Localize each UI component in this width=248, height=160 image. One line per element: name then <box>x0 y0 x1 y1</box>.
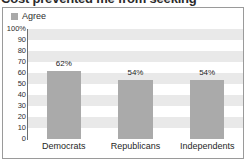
bar-slot: 62% <box>28 29 100 139</box>
y-axis-tick: 70 <box>18 58 26 66</box>
chart-legend: Agree <box>11 12 46 21</box>
y-axis-tick: 0 <box>22 135 26 143</box>
y-axis-tick: 50 <box>18 80 26 88</box>
plot-wrapper: 100%9080706050403020100 62%54%54% <box>3 29 243 139</box>
bar <box>190 80 224 139</box>
y-axis-tick: 100% <box>7 25 26 33</box>
y-axis-tick: 20 <box>18 113 26 121</box>
y-axis-tick: 10 <box>18 124 26 132</box>
bar-value-label: 54% <box>190 69 224 77</box>
x-axis-categories: DemocratsRepublicansIndependents <box>28 141 243 155</box>
bar-value-label: 54% <box>118 69 152 77</box>
y-axis-tick: 80 <box>18 47 26 55</box>
y-axis-tick: 60 <box>18 69 26 77</box>
y-axis-tick: 90 <box>18 36 26 44</box>
x-axis-tick-label: Republicans <box>100 141 172 152</box>
bar <box>118 80 152 139</box>
chart-screenshot: Cost prevented me from seeking Agree 100… <box>0 0 248 160</box>
legend-swatch-icon <box>11 13 18 20</box>
bar-slot: 54% <box>100 29 172 139</box>
chart-title-strip: Cost prevented me from seeking <box>0 0 248 7</box>
y-axis: 100%9080706050403020100 <box>3 29 27 139</box>
y-axis-tick: 30 <box>18 102 26 110</box>
bar-slot: 54% <box>171 29 243 139</box>
bar <box>47 71 81 139</box>
x-axis-tick-label: Democrats <box>28 141 100 152</box>
y-axis-tick: 40 <box>18 91 26 99</box>
page-title: Cost prevented me from seeking <box>1 0 197 6</box>
bar-value-label: 62% <box>47 60 81 68</box>
plot-area: 62%54%54% <box>28 29 243 139</box>
legend-label-agree: Agree <box>22 12 46 21</box>
x-axis-tick-label: Independents <box>171 141 243 152</box>
chart-frame: Agree 100%9080706050403020100 62%54%54% … <box>2 7 244 159</box>
bar-series: 62%54%54% <box>28 29 243 139</box>
